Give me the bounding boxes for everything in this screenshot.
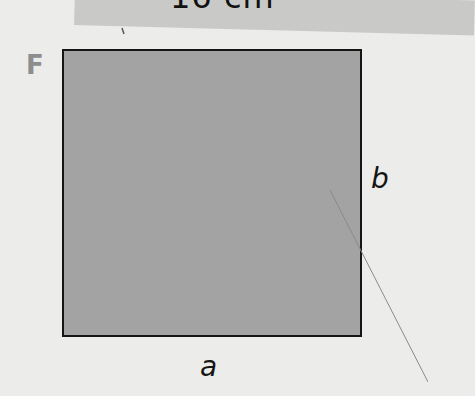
leader-line — [0, 0, 428, 396]
